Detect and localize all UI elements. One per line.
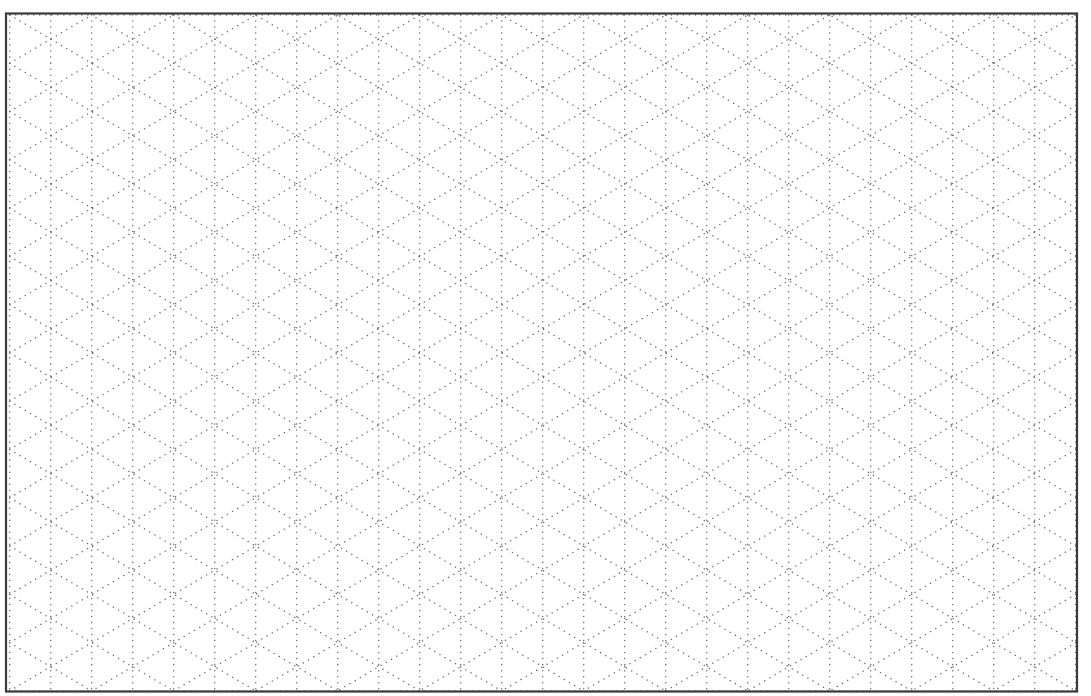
sheet-border [6,14,1077,692]
grid-lines [10,15,1076,691]
isometric-grid-sheet [0,0,1091,696]
